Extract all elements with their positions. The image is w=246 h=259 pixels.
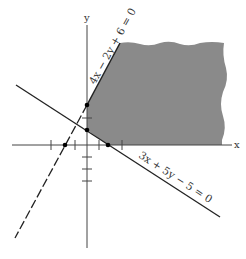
- line-4x-2y-6-dashed: [15, 105, 87, 238]
- point-5-3-0: [106, 143, 111, 148]
- y-axis-label: y: [83, 12, 90, 23]
- diagram-canvas: y x 4x − 2y + 6 = 0 3x + 5y − 5 = 0: [0, 0, 246, 259]
- point-0-3: [85, 103, 90, 108]
- x-axis-label: x: [234, 139, 240, 150]
- point-0-1: [85, 128, 90, 133]
- equation-label-3x-5y-5: 3x + 5y − 5 = 0: [137, 149, 215, 205]
- point-neg-3-2-0: [63, 143, 68, 148]
